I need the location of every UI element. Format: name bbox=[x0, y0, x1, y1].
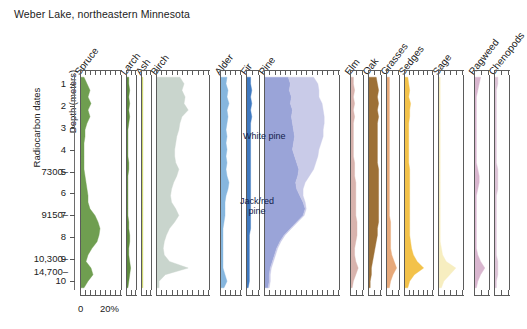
plot-area bbox=[80, 75, 498, 290]
series-ash bbox=[142, 77, 143, 288]
tickrow-spruce bbox=[80, 70, 122, 75]
axis-rule-ash bbox=[141, 295, 152, 296]
series-fir bbox=[247, 77, 252, 288]
depth-tick bbox=[70, 106, 75, 107]
x-axis-label-twenty: 20% bbox=[100, 303, 119, 314]
axis-rule-pine bbox=[264, 295, 340, 296]
depth-tick bbox=[70, 237, 75, 238]
axis-rule-larch bbox=[126, 295, 137, 296]
tickrow-chenopods bbox=[494, 70, 510, 75]
curve-fir bbox=[247, 75, 259, 290]
axis-rule-ragweed bbox=[474, 295, 490, 296]
series-sage bbox=[439, 77, 456, 288]
axis-rule-oak bbox=[368, 295, 382, 296]
jack-red-pine-label: Jack/redpine bbox=[240, 196, 274, 216]
series-ragweed bbox=[475, 77, 485, 288]
series-larch bbox=[127, 77, 131, 288]
curve-grasses bbox=[387, 75, 399, 290]
axis-rule-alder bbox=[220, 295, 242, 296]
depth-tick bbox=[70, 259, 75, 260]
axis-rule-elm bbox=[350, 295, 364, 296]
tickrow-ash bbox=[141, 70, 152, 75]
axis-rule-fir bbox=[246, 295, 260, 296]
axis-rule-chenopods bbox=[494, 295, 510, 296]
panel-grasses bbox=[386, 75, 400, 290]
tickrow-alder bbox=[220, 290, 242, 295]
depth-tick-label: 1 bbox=[50, 78, 66, 89]
curve-birch bbox=[157, 75, 209, 290]
tickrow-elm bbox=[350, 70, 364, 75]
tickrow-fir bbox=[246, 70, 260, 75]
panel-pine bbox=[264, 75, 340, 290]
series-oak bbox=[369, 77, 379, 288]
panel-ash bbox=[141, 75, 152, 290]
curve-ragweed bbox=[475, 75, 489, 290]
axis-rule-sedges bbox=[404, 295, 434, 296]
series-sedges bbox=[405, 77, 424, 288]
curve-ash bbox=[142, 75, 151, 290]
tickrow-ragweed bbox=[474, 290, 490, 295]
panel-oak bbox=[368, 75, 382, 290]
depth-axis-spine bbox=[74, 75, 75, 290]
series-grasses bbox=[387, 77, 397, 288]
panel-larch bbox=[126, 75, 137, 290]
depth-tick-label: 5 bbox=[50, 166, 66, 177]
series-spruce bbox=[81, 77, 100, 288]
panel-elm bbox=[350, 75, 364, 290]
tickrow-fir bbox=[246, 290, 260, 295]
curve-sage bbox=[439, 75, 463, 290]
tickrow-sage bbox=[438, 290, 464, 295]
depth-tick-label: 10 bbox=[50, 275, 66, 286]
series-chenopods bbox=[495, 77, 498, 288]
depth-tick bbox=[70, 193, 75, 194]
tickrow-chenopods bbox=[494, 290, 510, 295]
depth-tick-label: 4 bbox=[50, 144, 66, 155]
tickrow-grasses bbox=[386, 290, 400, 295]
panel-spruce bbox=[80, 75, 122, 290]
panel-sedges bbox=[404, 75, 434, 290]
panel-chenopods bbox=[494, 75, 510, 290]
tickrow-oak bbox=[368, 290, 382, 295]
curve-sedges bbox=[405, 75, 433, 290]
depth-tick-label: 8 bbox=[50, 231, 66, 242]
depth-tick-label: 7 bbox=[50, 209, 66, 220]
series-birch bbox=[157, 77, 188, 288]
curve-oak bbox=[369, 75, 381, 290]
tickrow-oak bbox=[368, 70, 382, 75]
tickrow-spruce bbox=[80, 290, 122, 295]
tickrow-elm bbox=[350, 290, 364, 295]
depth-tick-label: 9 bbox=[50, 253, 66, 264]
series-elm bbox=[351, 77, 358, 288]
tickrow-birch bbox=[156, 290, 210, 295]
depth-tick-label: 2 bbox=[50, 100, 66, 111]
curve-chenopods bbox=[495, 75, 509, 290]
depth-tick bbox=[70, 281, 75, 282]
axis-rule-spruce bbox=[80, 295, 122, 296]
axis-rule-sage bbox=[438, 295, 464, 296]
tickrow-pine bbox=[264, 70, 340, 75]
curve-larch bbox=[127, 75, 136, 290]
axis-rule-grasses bbox=[386, 295, 400, 296]
tickrow-sedges bbox=[404, 70, 434, 75]
depth-tick bbox=[70, 172, 75, 173]
axis-rule-birch bbox=[156, 295, 210, 296]
panel-fir bbox=[246, 75, 260, 290]
depth-tick bbox=[70, 128, 75, 129]
curve-alder bbox=[221, 75, 241, 290]
tickrow-pine bbox=[264, 290, 340, 295]
depth-tick bbox=[70, 215, 75, 216]
tickrow-birch bbox=[156, 70, 210, 75]
panel-sage bbox=[438, 75, 464, 290]
tickrow-alder bbox=[220, 70, 242, 75]
curve-elm bbox=[351, 75, 363, 290]
tickrow-ash bbox=[141, 290, 152, 295]
panel-birch bbox=[156, 75, 210, 290]
depth-tick-label: 6 bbox=[50, 187, 66, 198]
tickrow-sedges bbox=[404, 290, 434, 295]
tickrow-sage bbox=[438, 70, 464, 75]
x-axis-label-zero: 0 bbox=[78, 303, 83, 314]
page-title: Weber Lake, northeastern Minnesota bbox=[14, 8, 190, 20]
panel-alder bbox=[220, 75, 242, 290]
tickrow-ragweed bbox=[474, 70, 490, 75]
